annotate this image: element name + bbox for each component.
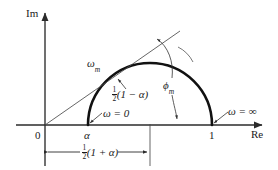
phi-m-angle-arc bbox=[178, 47, 193, 62]
omega-m-symbol: ω bbox=[87, 57, 95, 69]
polar-plot-figure: Im Re 0 α 1 ωm ω = 0 ω = ∞ ϕm 12(1 − α) … bbox=[0, 0, 278, 170]
alpha-tick-label: α bbox=[84, 130, 90, 141]
fraction-denominator: 2 bbox=[112, 95, 117, 103]
one-half-fraction: 12 bbox=[112, 86, 117, 102]
radius-body: (1 − α) bbox=[117, 88, 149, 100]
one-tick-label: 1 bbox=[209, 130, 215, 141]
phi-m-upper-leader bbox=[157, 39, 172, 78]
phi-m-subscript: m bbox=[169, 87, 174, 96]
phi-m-symbol: ϕ bbox=[163, 79, 169, 91]
phi-m-label: ϕm bbox=[163, 80, 174, 94]
omega-infinity-label: ω = ∞ bbox=[228, 106, 257, 117]
omega-infinity-leader bbox=[214, 112, 228, 123]
plot-canvas bbox=[0, 0, 278, 170]
fraction-denominator: 2 bbox=[82, 153, 87, 161]
omega-zero-label: ω = 0 bbox=[103, 108, 129, 119]
omega-zero-leader bbox=[90, 113, 102, 123]
phi-m-lower-leader bbox=[172, 95, 177, 119]
imaginary-axis-label: Im bbox=[26, 8, 38, 19]
omega-m-label: ωm bbox=[87, 58, 100, 72]
one-half-fraction: 12 bbox=[82, 144, 87, 160]
radius-expression: 12(1 − α) bbox=[112, 86, 148, 102]
center-distance-expression: 12(1 + α) bbox=[82, 144, 118, 160]
omega-m-subscript: m bbox=[95, 65, 100, 74]
center-distance-body: (1 + α) bbox=[87, 146, 119, 158]
real-axis-label: Re bbox=[251, 129, 263, 140]
origin-label: 0 bbox=[35, 130, 41, 141]
